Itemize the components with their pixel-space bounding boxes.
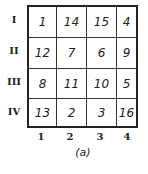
grid-cell: 13: [29, 99, 57, 126]
grid-cell: 7: [57, 38, 87, 69]
grid-cell: 5: [117, 69, 136, 99]
grid-cell: 16: [117, 99, 136, 126]
number-grid: 1 14 15 4 12 7 6 9 8 11 10 5 13 2 3 16: [27, 5, 138, 128]
grid-cell: 14: [57, 7, 87, 38]
row-label-4: IV: [4, 106, 24, 117]
grid-cell: 15: [87, 7, 117, 38]
row-label-2: II: [4, 45, 24, 56]
grid-cell: 9: [117, 38, 136, 69]
figure-caption: (a): [68, 146, 98, 159]
grid-cell: 2: [57, 99, 87, 126]
col-label-3: 3: [90, 131, 110, 142]
grid-cell: 11: [57, 69, 87, 99]
col-label-2: 2: [60, 131, 80, 142]
grid-cell: 10: [87, 69, 117, 99]
col-label-1: 1: [31, 131, 51, 142]
grid-cell: 6: [87, 38, 117, 69]
grid-cell: 4: [117, 7, 136, 38]
grid-cell: 3: [87, 99, 117, 126]
row-label-1: I: [4, 14, 24, 25]
row-label-3: III: [4, 76, 24, 87]
grid-cell: 8: [29, 69, 57, 99]
grid-cell: 1: [29, 7, 57, 38]
col-label-4: 4: [117, 131, 137, 142]
grid-cell: 12: [29, 38, 57, 69]
